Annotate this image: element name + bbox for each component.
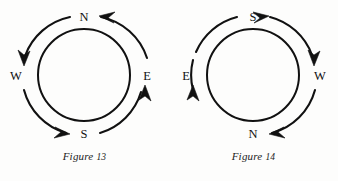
arrowhead-at-west-down xyxy=(18,50,30,66)
figure-14-caption-number: 14 xyxy=(265,152,275,162)
arc-left-to-bottom xyxy=(24,90,66,133)
figure-14-label-bottom: N xyxy=(248,127,257,141)
arrowhead-at-east-up xyxy=(187,85,199,101)
figure-14-diagram: S W N E xyxy=(169,0,338,152)
figure-13-caption-number: 13 xyxy=(96,152,106,162)
arc-top-to-left xyxy=(25,17,70,56)
arc-bottom-to-right xyxy=(100,92,141,133)
figure-13-caption-word: Figure xyxy=(63,150,94,162)
figure-13-block: N E S W Figure 13 xyxy=(0,0,169,181)
figure-13-label-left: W xyxy=(10,69,22,83)
figure-13-diagram: N E S W xyxy=(0,0,169,152)
figure-13-label-top: N xyxy=(79,10,88,24)
inner-circle xyxy=(38,29,130,121)
figure-page: N E S W Figure 13 xyxy=(0,0,338,181)
figure-14-caption: Figure 14 xyxy=(169,150,338,162)
figure-14-label-left: E xyxy=(182,69,190,83)
figure-14-label-top: S xyxy=(250,10,257,24)
figure-14-block: S W N E Figure 14 xyxy=(169,0,338,181)
arrowhead-at-west-down xyxy=(308,50,320,66)
figure-13-label-right: E xyxy=(143,69,151,83)
figure-13-caption: Figure 13 xyxy=(0,150,169,162)
figure-14-label-right: W xyxy=(314,69,326,83)
figure-14-caption-word: Figure xyxy=(232,150,263,162)
inner-circle xyxy=(207,29,299,121)
figure-13-label-bottom: S xyxy=(81,127,88,141)
